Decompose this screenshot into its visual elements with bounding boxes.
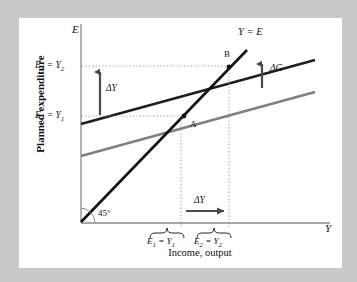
y-tick-e2-sub2: 2 xyxy=(61,65,65,73)
x-axis-title: Income, output xyxy=(120,247,280,258)
point-a-label: A xyxy=(190,120,197,129)
y-tick-label-e2: E2 = Y2 xyxy=(35,61,64,73)
angle-45-label: 45° xyxy=(98,209,111,218)
figure-container: Planned expenditure E Y E2 = Y2 E1 = Y1 … xyxy=(0,0,357,282)
delta-y-vertical-label: ΔY xyxy=(106,84,117,94)
y-tick-e1-eq: = xyxy=(44,110,55,120)
point-a-marker xyxy=(182,114,187,119)
delta-g-label: ΔG xyxy=(270,64,282,74)
plot-canvas xyxy=(0,0,357,282)
y-tick-label-e1: E1 = Y1 xyxy=(35,111,64,123)
identity-line-label: Y = E xyxy=(238,27,263,38)
identity-line-45 xyxy=(81,50,247,222)
y-axis-title: Planned expenditure xyxy=(34,24,46,184)
y-axis-name: E xyxy=(72,24,79,35)
x-axis-name: Y xyxy=(325,223,331,234)
y-tick-e1-sub2: 1 xyxy=(61,115,65,123)
point-b-marker xyxy=(227,65,232,70)
delta-y-horizontal-label: ΔY xyxy=(194,196,205,206)
point-b-label: B xyxy=(224,50,230,59)
y-tick-e2-eq: = xyxy=(44,60,55,70)
